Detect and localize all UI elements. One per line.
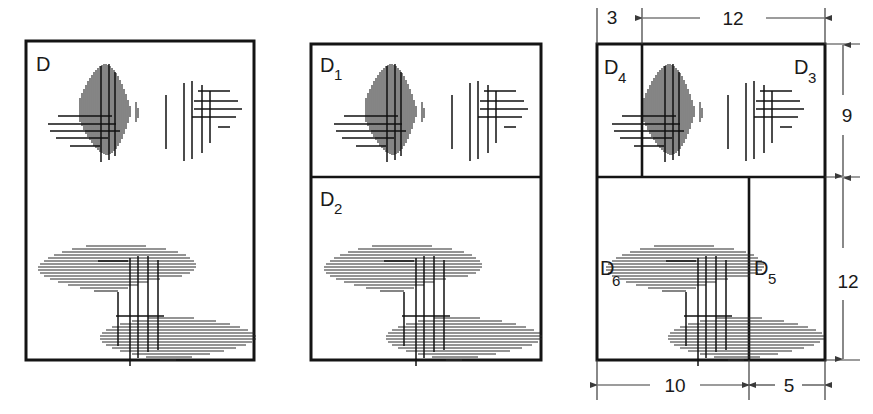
region-label-d1-base: D: [320, 54, 334, 76]
dimension-top-right-value: 12: [722, 8, 743, 29]
region-label-d5: D 5: [754, 257, 776, 287]
panel-d3-d6: D 4 D 3 D 6 D 5 3: [597, 7, 860, 400]
dimension-bottom: 10 5: [597, 360, 825, 400]
region-label-d1: D 1: [320, 54, 342, 83]
dimension-right-upper-value: 9: [842, 105, 853, 126]
region-label-d: D: [36, 53, 50, 75]
dimension-bottom-right-value: 5: [784, 375, 795, 396]
domain-d-frame: [26, 41, 254, 360]
hatching-cluster-d3-right: [728, 81, 804, 161]
hatching-cluster-bottom: [38, 246, 256, 366]
region-label-d5-base: D: [754, 257, 768, 279]
region-label-d1-sub: 1: [334, 66, 342, 83]
region-label-d6-sub: 6: [612, 272, 620, 289]
region-label-d4-base: D: [604, 56, 618, 78]
hatching-cluster-top-right: [166, 81, 242, 161]
hatching-cluster-d1-right: [452, 81, 528, 161]
region-label-d3-sub: 3: [808, 69, 816, 86]
panel-d: D: [26, 41, 256, 366]
dimension-top-left-value: 3: [607, 7, 618, 28]
dimension-right: 9 12: [825, 44, 860, 360]
region-label-d6: D 6: [600, 257, 620, 289]
region-label-d2-base: D: [320, 188, 334, 210]
hatching-cluster-d6: [606, 246, 824, 366]
hatching-cluster-top-left: [48, 64, 138, 162]
figure-container: D D 1 D 2: [0, 0, 873, 414]
region-label-d2: D 2: [320, 188, 342, 217]
region-label-d2-sub: 2: [334, 200, 342, 217]
panel-d1-d2: D 1 D 2: [311, 44, 542, 366]
region-label-d5-sub: 5: [768, 270, 776, 287]
domain-decomposition-diagram: D D 1 D 2: [0, 0, 873, 414]
dimension-right-lower-value: 12: [837, 271, 858, 292]
region-label-d4-sub: 4: [618, 69, 626, 86]
dimension-bottom-left-value: 10: [664, 375, 685, 396]
region-label-d3: D 3: [794, 56, 816, 86]
region-label-d4: D 4: [604, 56, 626, 86]
hatching-cluster-d2: [324, 246, 542, 366]
dimension-top: 3 12: [597, 7, 825, 44]
region-label-d3-base: D: [794, 56, 808, 78]
hatching-cluster-d1-left: [334, 64, 424, 162]
